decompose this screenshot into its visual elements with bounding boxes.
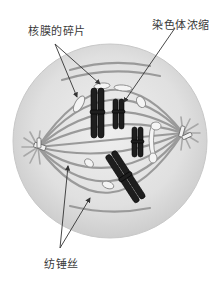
mitosis-prophase-diagram bbox=[0, 0, 220, 281]
label-spindle-fibers: 纺锤丝 bbox=[44, 255, 79, 271]
label-chromosome-condensation: 染色体浓缩 bbox=[152, 16, 210, 32]
label-nuclear-membrane-fragments: 核膜的碎片 bbox=[28, 22, 86, 38]
